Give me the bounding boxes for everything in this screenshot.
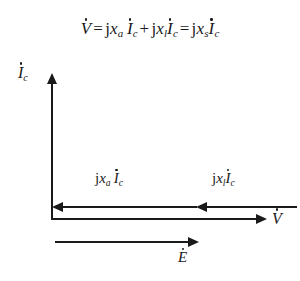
vector-label-jxl: jxlIc: [212, 170, 235, 188]
vertical-axis-label: Ic: [18, 64, 28, 83]
reactance-symbol-2: x: [156, 19, 164, 38]
jxa-x-sub: a: [106, 177, 111, 188]
ic-dot-symbol: I: [18, 64, 23, 82]
vector-arrow-line-e: [55, 241, 189, 243]
phasor-diagram-figure: V =jxa Ic+jxlIc=jxsIc Ic V jxa Ic jxlIc …: [0, 0, 300, 281]
vertical-axis-line: [51, 83, 53, 220]
ic-subscript: c: [23, 72, 28, 83]
vector-arrow-line-jxl: [206, 206, 297, 208]
jxl-i: I: [226, 170, 231, 187]
jxa-x: x: [99, 170, 106, 186]
equals-operator-1: =: [91, 19, 105, 38]
horizontal-axis-arrowhead-icon: [256, 214, 267, 224]
current-subscript-1: c: [133, 27, 138, 39]
jxa-i-sub: c: [119, 177, 123, 188]
horizontal-axis-line: [51, 218, 257, 220]
v-axis-dot-symbol: V: [272, 210, 282, 228]
current-symbol-1: I: [127, 20, 133, 39]
equation-term-1: jxa Ic: [105, 20, 137, 40]
equation-lhs: V: [81, 20, 92, 39]
vector-label-jxa: jxa Ic: [95, 170, 123, 188]
e-dot-symbol: E: [178, 249, 187, 266]
horizontal-axis-label: V: [272, 210, 282, 228]
equation-term-2: jxlIc: [151, 20, 177, 40]
current-symbol-2: I: [167, 20, 173, 39]
current-symbol-3: I: [209, 20, 215, 39]
vector-arrow-line-jxa: [62, 206, 197, 208]
jxl-i-sub: c: [231, 177, 235, 188]
v-dot-symbol: V: [81, 20, 92, 39]
equals-operator-2: =: [178, 19, 192, 38]
vertical-axis-arrowhead-icon: [47, 73, 57, 84]
vector-arrowhead-jxl-icon: [196, 202, 207, 212]
jxl-x: x: [216, 170, 223, 186]
vector-arrowhead-jxa-icon: [52, 202, 63, 212]
equation-term-3: jxsIc: [192, 20, 220, 40]
reactance-subscript-1: a: [118, 27, 123, 39]
vector-label-e: E: [178, 249, 187, 266]
plus-operator: +: [138, 19, 152, 38]
equation: V =jxa Ic+jxlIc=jxsIc: [0, 20, 300, 40]
current-subscript-3: c: [214, 27, 219, 39]
jxa-i: I: [114, 170, 119, 187]
vector-arrowhead-e-icon: [188, 237, 199, 247]
reactance-symbol-1: x: [110, 19, 118, 38]
